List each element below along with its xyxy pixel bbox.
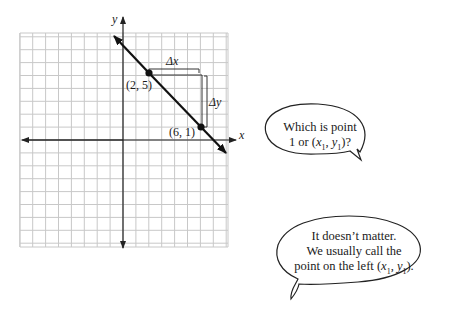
- text: ).: [406, 259, 413, 273]
- answer-line-2: We usually call the: [289, 244, 419, 259]
- answer-text: It doesn’t matter. We usually call the p…: [289, 229, 419, 279]
- y-axis-label: y: [112, 13, 117, 25]
- text: )?: [341, 135, 351, 149]
- point-2-5: [145, 69, 152, 76]
- point-label-2-5: (2, 5): [126, 79, 152, 91]
- question-text: Which is point 1 or (x1, y1)?: [276, 120, 364, 155]
- answer-line-3: point on the left (x1, y1).: [289, 259, 419, 279]
- text: 1 or (: [289, 135, 316, 149]
- delta-y-label: Δy: [209, 96, 221, 108]
- point-6-1: [197, 123, 204, 130]
- delta-x-bracket: [149, 69, 199, 73]
- x-axis-label: x: [239, 129, 244, 141]
- delta-x-label: Δx: [166, 55, 178, 67]
- answer-line-1: It doesn’t matter.: [289, 229, 419, 244]
- question-line-2: 1 or (x1, y1)?: [276, 135, 364, 155]
- point-label-6-1: (6, 1): [169, 126, 195, 138]
- line-through-points: [114, 36, 149, 73]
- text: point on the left (: [294, 259, 381, 273]
- question-line-1: Which is point: [276, 120, 364, 135]
